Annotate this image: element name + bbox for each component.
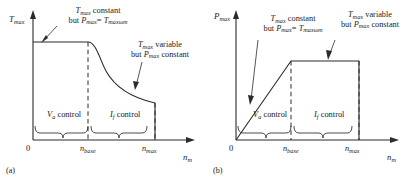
chart-panel-b: Pmax Tmax constant but Pmax= Tmaxωm Tmax… <box>207 0 414 185</box>
chart-panel-a: Tmax Tmax constant but Pmax= Tmaxωm Tmax… <box>0 0 207 185</box>
panel-b-x-axis-label-sub: m <box>391 156 396 163</box>
panel-b-tick-nmax-sub: max <box>349 147 360 154</box>
panel-a-va-control-brace <box>35 126 88 138</box>
panel-a-tick-nbase-sub: base <box>84 147 96 154</box>
panel-b-tick-nbase-sub: base <box>287 147 299 154</box>
panel-a-constant-torque-annotation: Tmax constant but Pmax= Tmaxωm <box>46 6 150 25</box>
panel-a-tick-nbase: nbase <box>80 144 96 153</box>
panel-b-constant-torque-leader <box>248 40 258 105</box>
figure-root: Tmax Tmax constant but Pmax= Tmaxωm Tmax… <box>0 0 414 185</box>
annotation-line-2: but Pmax constant <box>112 50 208 60</box>
panel-a-graphic <box>0 0 207 185</box>
panel-a-va-control-label: Va control <box>47 110 81 120</box>
panel-b-y-axis-label: Pmax <box>214 11 230 21</box>
annotation-line-1: Tmax variable <box>112 40 208 50</box>
panel-a-constant-power-leader <box>133 62 142 90</box>
panel-a-constant-torque-leader <box>41 26 57 43</box>
panel-b-if-control-label: If control <box>314 110 344 120</box>
panel-a-if-control-label: If control <box>110 110 140 120</box>
panel-b-va-control-label: Va control <box>253 110 287 120</box>
panel-a-tick-nmax-sub: max <box>146 147 157 154</box>
panel-b-constant-power-annotation: Tmax variable but Pmax constant <box>325 10 414 29</box>
panel-a-tag: (a) <box>6 166 15 175</box>
panel-b-constant-power-leader <box>326 40 335 60</box>
panel-b-tick-zero: 0 <box>229 144 233 154</box>
panel-a-y-axis-label: Tmax <box>9 14 25 24</box>
annotation-line-1: Tmax variable <box>325 10 414 20</box>
panel-a-tick-nmax: nmax <box>142 144 157 153</box>
annotation-line-1: Tmax constant <box>46 6 150 16</box>
annotation-line-2: but Pmax= Tmaxωm <box>46 16 150 26</box>
panel-a-y-axis-label-sub: max <box>14 18 25 25</box>
panel-b-y-axis-label-sub: max <box>219 15 230 22</box>
panel-b-x-axis <box>236 137 399 143</box>
panel-b-tick-nmax: nmax <box>345 144 360 153</box>
panel-b-if-control-brace <box>294 126 352 138</box>
panel-a-x-axis-label: nm <box>183 152 192 162</box>
annotation-line-2: but Pmax constant <box>325 20 414 30</box>
panel-a-x-axis <box>33 137 195 143</box>
panel-b-tag: (b) <box>213 166 223 175</box>
panel-b-tick-nbase: nbase <box>283 144 299 153</box>
panel-a-constant-power-annotation: Tmax variable but Pmax constant <box>112 40 208 59</box>
panel-b-va-control-brace <box>238 126 291 138</box>
panel-a-x-axis-label-sub: m <box>187 156 192 163</box>
panel-a-if-control-brace <box>91 126 147 138</box>
panel-a-tick-zero: 0 <box>26 144 30 154</box>
panel-a-y-axis <box>30 10 36 140</box>
panel-b-y-axis <box>233 10 239 140</box>
panel-b-x-axis-label: nm <box>387 152 396 162</box>
